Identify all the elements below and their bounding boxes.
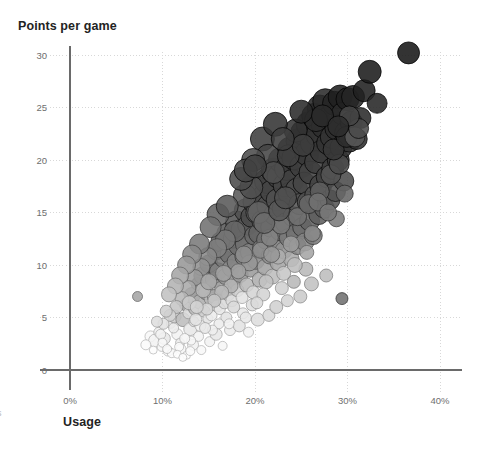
data-point bbox=[160, 305, 172, 317]
data-point bbox=[224, 319, 234, 329]
x-tick-label: 20% bbox=[245, 395, 265, 406]
data-point bbox=[180, 334, 190, 344]
data-point bbox=[300, 245, 314, 259]
data-point bbox=[190, 314, 202, 326]
data-point bbox=[264, 247, 280, 263]
data-point bbox=[259, 275, 273, 289]
data-point bbox=[156, 329, 166, 339]
x-tick-label: 0% bbox=[63, 395, 77, 406]
data-point bbox=[270, 301, 283, 314]
data-point bbox=[283, 236, 299, 252]
x-axis-tick-labels: 0%10%20%30%40% bbox=[63, 395, 450, 406]
data-point bbox=[133, 292, 143, 302]
data-point bbox=[179, 353, 187, 361]
data-point bbox=[336, 185, 353, 202]
y-axis-tick-labels: 051015202530 bbox=[36, 50, 47, 376]
data-point bbox=[186, 347, 195, 356]
x-tick-label: 10% bbox=[153, 395, 173, 406]
data-point bbox=[271, 128, 294, 151]
data-point bbox=[231, 264, 246, 279]
data-point bbox=[304, 226, 320, 242]
y-tick-label: 20 bbox=[36, 155, 47, 166]
data-point bbox=[235, 246, 252, 263]
data-point bbox=[228, 301, 240, 313]
data-point bbox=[367, 93, 387, 113]
data-point bbox=[216, 195, 238, 217]
data-point bbox=[336, 293, 348, 305]
data-point bbox=[320, 204, 337, 221]
data-point bbox=[290, 100, 313, 123]
data-point bbox=[281, 295, 293, 307]
y-tick-label: 30 bbox=[36, 50, 47, 61]
data-point bbox=[240, 312, 251, 323]
data-point bbox=[236, 292, 248, 304]
data-point bbox=[218, 341, 227, 350]
data-point bbox=[161, 287, 176, 302]
data-point bbox=[251, 313, 264, 326]
data-point bbox=[169, 323, 179, 333]
data-points bbox=[133, 42, 420, 362]
data-point bbox=[149, 346, 157, 354]
data-point bbox=[197, 346, 206, 355]
data-point bbox=[292, 134, 314, 156]
data-point bbox=[320, 269, 333, 282]
y-tick-label: 10 bbox=[36, 260, 47, 271]
data-point bbox=[275, 282, 288, 295]
x-tick-label: 30% bbox=[338, 395, 358, 406]
data-point bbox=[251, 297, 263, 309]
data-point bbox=[287, 275, 300, 288]
data-point bbox=[151, 316, 162, 327]
y-tick-label: 5 bbox=[42, 312, 47, 323]
data-point bbox=[244, 155, 267, 178]
data-point bbox=[244, 327, 254, 337]
data-point bbox=[216, 265, 232, 281]
data-point bbox=[358, 60, 381, 83]
x-axis-title: Usage bbox=[63, 415, 101, 429]
y-tick-label: 15 bbox=[36, 207, 47, 218]
data-point bbox=[163, 345, 172, 354]
x-tick-label: 40% bbox=[430, 395, 450, 406]
data-point bbox=[275, 187, 297, 209]
data-point bbox=[190, 301, 203, 314]
data-point bbox=[294, 290, 307, 303]
data-point bbox=[398, 42, 420, 64]
data-point bbox=[201, 274, 217, 290]
plot-area: 051015202530 0%10%20%30%40% bbox=[0, 0, 477, 449]
data-point bbox=[304, 277, 318, 291]
scatter-chart: Points per game s 051015202530 0%10%20%3… bbox=[0, 0, 477, 449]
y-tick-label: 25 bbox=[36, 102, 47, 113]
data-point bbox=[328, 116, 349, 137]
